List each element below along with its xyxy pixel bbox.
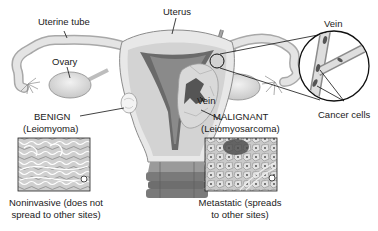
benign-caption-line2: spread to other sites) xyxy=(4,209,108,220)
magnified-vein-circle xyxy=(299,28,372,110)
vein-uterine-label: Vein xyxy=(197,95,216,106)
malignant-histology-image xyxy=(205,138,277,191)
benign-subtitle: (Leiomyoma) xyxy=(23,123,78,134)
vein-callout-label: Vein xyxy=(324,18,343,29)
uterine-tube-label: Uterine tube xyxy=(38,16,90,27)
benign-caption-line1: Noninvasive (does not xyxy=(4,197,108,208)
cervix xyxy=(146,162,208,198)
cancer-cells-label: Cancer cells xyxy=(318,109,370,120)
malignant-title: MALIGNANT xyxy=(213,111,268,122)
malignant-caption-line2: to other sites) xyxy=(190,209,290,220)
malignant-caption-line1: Metastatic (spreads xyxy=(190,197,290,208)
benign-histology-image xyxy=(18,138,90,191)
ovary-label: Ovary xyxy=(52,56,77,67)
left-ovary xyxy=(49,70,108,98)
malignant-subtitle: (Leiomyosarcoma) xyxy=(201,123,280,134)
benign-title: BENIGN xyxy=(34,111,70,122)
uterus-label: Uterus xyxy=(163,6,191,17)
